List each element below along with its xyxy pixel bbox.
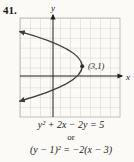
answer-equations: y² + 2x − 2y = 5 or (y − 1)² = −2(x − 3)	[10, 118, 132, 156]
y-axis-label: y	[50, 3, 55, 13]
grid	[20, 18, 120, 117]
equation-general-form: y² + 2x − 2y = 5	[10, 118, 132, 131]
equation-standard-form: (y − 1)² = −2(x − 3)	[10, 143, 132, 156]
equation-connector: or	[10, 131, 132, 143]
vertex-point-label: (3,1)	[88, 61, 104, 71]
x-axis-label: x	[125, 72, 130, 82]
graph-canvas: y x (3,1)	[0, 0, 134, 120]
parabola-graph: y x (3,1)	[0, 0, 134, 124]
vertex-point	[80, 64, 84, 68]
